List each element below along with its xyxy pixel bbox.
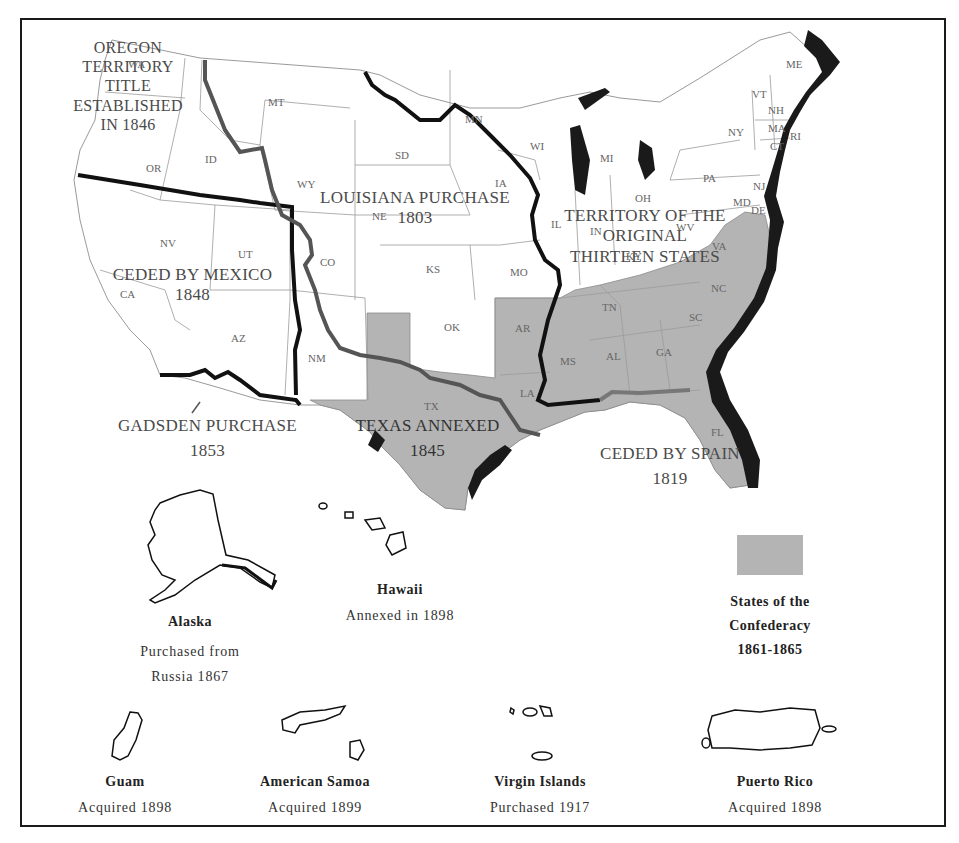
virgin-islands-caption-title: Virgin Islands <box>470 774 610 790</box>
state-label-ia: IA <box>495 177 507 189</box>
legend-line: 1861-1865 <box>715 638 825 662</box>
state-label-la: LA <box>520 387 535 399</box>
label-line: 1845 <box>345 439 510 464</box>
guam-caption: Acquired 1898 <box>60 800 190 816</box>
state-label-tn: TN <box>602 301 617 313</box>
label-original-thirteen: TERRITORY OF THE ORIGINAL THIRTEEN STATE… <box>550 206 740 267</box>
state-label-tx: TX <box>424 400 439 412</box>
state-label-ga: GA <box>656 346 672 358</box>
state-label-ca: CA <box>120 288 135 300</box>
state-label-nj: NJ <box>753 180 765 192</box>
label-line: TITLE <box>68 76 188 95</box>
label-line: CEDED BY SPAIN <box>585 442 755 467</box>
state-label-wa: WA <box>128 58 145 70</box>
state-label-ne: NE <box>372 210 387 222</box>
state-label-nh: NH <box>768 104 784 116</box>
state-label-wi: WI <box>530 140 544 152</box>
state-label-id: ID <box>205 153 217 165</box>
alaska-caption-title: Alaska <box>140 614 240 630</box>
label-ceded-by-spain: CEDED BY SPAIN 1819 <box>585 442 755 491</box>
label-line: ESTABLISHED <box>68 96 188 115</box>
state-label-mi: MI <box>600 152 613 164</box>
state-label-md: MD <box>733 196 751 208</box>
virgin-islands-caption: Purchased 1917 <box>470 800 610 816</box>
alaska-inset <box>148 490 276 603</box>
label-texas-annexed: TEXAS ANNEXED 1845 <box>345 414 510 463</box>
state-label-ri: RI <box>790 130 801 142</box>
state-label-nv: NV <box>160 237 176 249</box>
state-label-va: VA <box>712 240 726 252</box>
samoa-caption: Acquired 1899 <box>250 800 380 816</box>
state-label-ms: MS <box>560 355 576 367</box>
state-label-fl: FL <box>711 426 724 438</box>
state-label-me: ME <box>786 58 803 70</box>
state-label-vt: VT <box>752 88 767 100</box>
label-line: IN 1846 <box>68 115 188 134</box>
puerto-rico-caption: Acquired 1898 <box>710 800 840 816</box>
caption-line: Russia 1867 <box>120 665 260 690</box>
state-label-de: DE <box>751 204 766 216</box>
state-label-az: AZ <box>231 332 246 344</box>
samoa-caption-title: American Samoa <box>245 774 385 790</box>
alaska-caption: Purchased from Russia 1867 <box>120 640 260 689</box>
label-oregon-territory: OREGON TERRITORY TITLE ESTABLISHED IN 18… <box>68 38 188 134</box>
label-line: GADSDEN PURCHASE <box>105 414 310 439</box>
state-label-co: CO <box>320 256 335 268</box>
state-label-mn: MN <box>465 113 483 125</box>
caption-line: Purchased from <box>120 640 260 665</box>
state-label-in: IN <box>590 225 602 237</box>
state-label-ct: CT <box>770 140 784 152</box>
legend-line: Confederacy <box>715 614 825 638</box>
guam-inset <box>112 712 142 760</box>
label-line: LOUISIANA PURCHASE <box>305 188 525 208</box>
hawaii-caption: Annexed in 1898 <box>330 608 470 624</box>
puerto-rico-caption-title: Puerto Rico <box>715 774 835 790</box>
label-line: CEDED BY MEXICO <box>100 265 285 285</box>
guam-caption-title: Guam <box>80 774 170 790</box>
state-label-or: OR <box>146 162 161 174</box>
confederacy-legend-label: States of the Confederacy 1861-1865 <box>715 590 825 661</box>
state-label-nc: NC <box>711 282 726 294</box>
state-label-ks: KS <box>426 263 440 275</box>
label-line: OREGON <box>68 38 188 57</box>
confederacy-legend-swatch <box>737 535 803 575</box>
state-label-al: AL <box>606 350 621 362</box>
state-label-pa: PA <box>703 172 716 184</box>
state-label-il: IL <box>551 218 561 230</box>
label-line: 1803 <box>305 208 525 228</box>
label-line: 1853 <box>105 439 310 464</box>
label-line: TERRITORY OF THE <box>550 206 740 226</box>
state-label-sc: SC <box>689 311 702 323</box>
label-line: 1819 <box>585 467 755 492</box>
state-label-ky: KY <box>626 250 642 262</box>
label-line: TEXAS ANNEXED <box>345 414 510 439</box>
state-label-wv: WV <box>676 221 694 233</box>
state-label-ut: UT <box>238 248 253 260</box>
hawaii-inset <box>319 503 406 555</box>
samoa-inset <box>282 706 364 760</box>
state-label-ny: NY <box>728 126 744 138</box>
state-label-wy: WY <box>297 178 315 190</box>
puerto-rico-inset <box>702 708 836 750</box>
state-label-sd: SD <box>395 149 409 161</box>
legend-line: States of the <box>715 590 825 614</box>
state-label-oh: OH <box>635 192 651 204</box>
label-gadsden-purchase: GADSDEN PURCHASE 1853 <box>105 414 310 463</box>
state-label-ma: MA <box>768 122 786 134</box>
state-label-ar: AR <box>515 322 530 334</box>
label-louisiana-purchase: LOUISIANA PURCHASE 1803 <box>305 188 525 229</box>
state-label-mo: MO <box>510 266 528 278</box>
state-label-nm: NM <box>308 352 326 364</box>
state-label-mt: MT <box>268 96 285 108</box>
virgin-islands-inset <box>510 706 552 760</box>
state-label-ok: OK <box>444 321 460 333</box>
hawaii-caption-title: Hawaii <box>340 582 460 598</box>
